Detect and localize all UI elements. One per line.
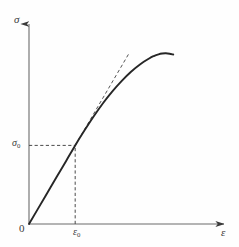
sigma-zero-tick-label: σ0	[12, 138, 20, 148]
origin-label: 0	[19, 223, 25, 234]
epsilon-zero-subscript: 0	[77, 231, 80, 238]
sigma-zero-subscript: 0	[17, 142, 20, 149]
stress-strain-figure: σ ε 0 σ0 ε0	[0, 0, 239, 247]
x-axis-label: ε	[221, 227, 225, 238]
chart-canvas	[0, 0, 239, 247]
y-axis-label: σ	[14, 14, 19, 25]
epsilon-zero-tick-label: ε0	[73, 227, 80, 237]
stress-strain-curve	[29, 53, 173, 224]
